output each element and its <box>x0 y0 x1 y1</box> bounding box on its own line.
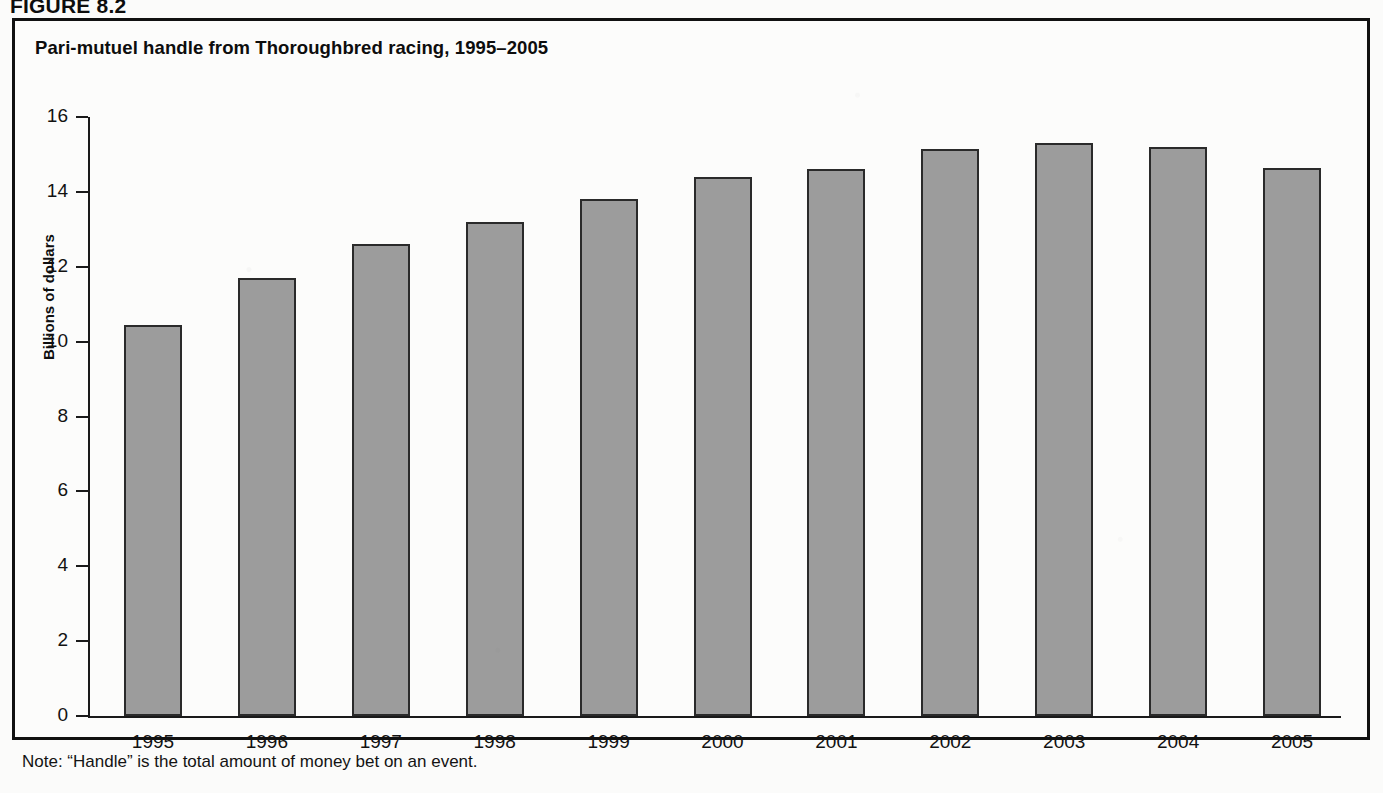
chart-title: Pari-mutuel handle from Thoroughbred rac… <box>35 37 548 59</box>
plot-area: 0246810121416 19951996199719981999200020… <box>88 117 1341 718</box>
y-axis-tick: 6 <box>76 490 88 492</box>
figure-number-label: FIGURE 8.2 <box>10 0 126 18</box>
x-axis-line <box>88 716 1341 718</box>
bar <box>352 244 410 716</box>
y-axis-tick: 14 <box>76 191 88 193</box>
x-axis-tick-label: 2003 <box>1024 731 1104 753</box>
x-axis-tick-label: 1999 <box>569 731 649 753</box>
bar <box>1149 147 1207 716</box>
bar <box>466 222 524 716</box>
y-axis-tick: 10 <box>76 341 88 343</box>
x-axis-tick-label: 1996 <box>227 731 307 753</box>
bar <box>1263 168 1321 716</box>
y-axis-line <box>88 117 90 718</box>
x-axis-tick-label: 2004 <box>1138 731 1218 753</box>
y-axis-tick: 2 <box>76 640 88 642</box>
bar <box>807 169 865 716</box>
x-axis-tick-label: 2001 <box>796 731 876 753</box>
y-axis-tick: 16 <box>76 116 88 118</box>
bar <box>694 177 752 716</box>
bar <box>580 199 638 716</box>
y-axis-tick-label: 10 <box>47 330 68 352</box>
y-axis-tick: 8 <box>76 416 88 418</box>
x-axis-tick-label: 1995 <box>113 731 193 753</box>
x-axis-tick-label: 2002 <box>910 731 990 753</box>
bar <box>124 325 182 716</box>
figure-page: FIGURE 8.2 Pari-mutuel handle from Thoro… <box>0 0 1383 793</box>
x-axis-tick-label: 1998 <box>455 731 535 753</box>
y-axis-tick: 0 <box>76 715 88 717</box>
bar <box>921 149 979 716</box>
y-axis-tick-label: 2 <box>57 629 68 651</box>
y-axis-tick-label: 0 <box>57 704 68 726</box>
y-axis-tick-label: 4 <box>57 554 68 576</box>
y-axis-tick: 4 <box>76 565 88 567</box>
y-axis-tick-label: 8 <box>57 405 68 427</box>
figure-note: Note: “Handle” is the total amount of mo… <box>22 752 478 772</box>
y-axis-tick: 12 <box>76 266 88 268</box>
bar <box>238 278 296 716</box>
x-axis-tick-label: 1997 <box>341 731 421 753</box>
y-axis-tick-label: 6 <box>57 479 68 501</box>
bar <box>1035 143 1093 716</box>
y-axis-tick-label: 12 <box>47 255 68 277</box>
y-axis-tick-label: 16 <box>47 105 68 127</box>
x-axis-tick-label: 2005 <box>1252 731 1332 753</box>
y-axis-tick-label: 14 <box>47 180 68 202</box>
x-axis-tick-label: 2000 <box>683 731 763 753</box>
